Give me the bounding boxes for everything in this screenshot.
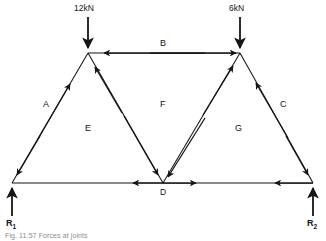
load-label-right: 6kN — [229, 4, 244, 13]
reaction-label-right: R2 — [307, 219, 317, 230]
load-label-left: 12kN — [74, 4, 94, 13]
figure-caption: Fig. 11.57 Forces at joints — [5, 232, 88, 239]
region-label-C: C — [280, 100, 287, 109]
reaction-label-left-subscript: 1 — [13, 223, 17, 230]
truss-frame-lines — [12, 53, 313, 183]
reaction-label-right-subscript: 2 — [314, 223, 318, 230]
arrow-E-toward-node-D — [124, 116, 158, 175]
arrow-E-toward-apex — [95, 67, 122, 113]
arrow-C-toward-support — [286, 136, 308, 175]
truss-force-diagram: 12kN 6kN A B C E F G D R1 R2 Fig. 11.57 … — [0, 0, 326, 241]
member-force-arrows — [17, 53, 313, 183]
truss-diagram-svg — [0, 0, 326, 241]
arrow-F-toward-apex — [203, 66, 233, 115]
region-label-A: A — [43, 100, 49, 109]
arrow-F-toward-node-D — [168, 118, 205, 177]
region-label-E: E — [85, 124, 91, 133]
region-label-G: G — [235, 124, 242, 133]
arrow-C-toward-apex — [256, 83, 288, 138]
region-label-F: F — [160, 100, 166, 109]
reaction-label-left: R1 — [6, 219, 16, 230]
node-label-D: D — [160, 188, 166, 197]
arrow-A-toward-apex — [38, 84, 70, 139]
region-label-B: B — [160, 39, 166, 48]
arrow-A-toward-support — [17, 136, 40, 175]
